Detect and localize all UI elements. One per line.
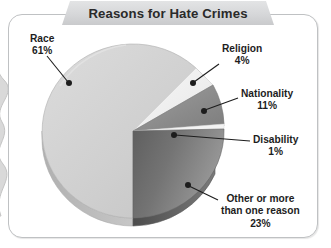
pie-slice-other: [133, 129, 224, 218]
label-religion-name: Religion: [222, 43, 262, 55]
label-disability-name: Disability: [253, 134, 298, 146]
label-other-line1: Other or more: [221, 193, 300, 205]
label-nationality-name: Nationality: [241, 88, 293, 100]
label-religion-value: 4%: [222, 55, 262, 67]
label-disability-value: 1%: [253, 146, 298, 158]
label-race-value: 61%: [30, 45, 54, 57]
label-disability: Disability 1%: [253, 134, 298, 159]
label-race: Race 61%: [30, 33, 54, 58]
label-other-value: 23%: [221, 218, 300, 230]
label-race-name: Race: [30, 33, 54, 45]
label-other: Other or more than one reason 23%: [221, 193, 300, 230]
label-nationality: Nationality 11%: [241, 88, 293, 113]
page-title: Reasons for Hate Crimes: [62, 1, 274, 25]
label-nationality-value: 11%: [241, 100, 293, 112]
label-other-line2: than one reason: [221, 205, 300, 217]
label-religion: Religion 4%: [222, 43, 262, 68]
hate-crimes-pie-figure: Reasons for Hate Crimes: [0, 0, 331, 248]
